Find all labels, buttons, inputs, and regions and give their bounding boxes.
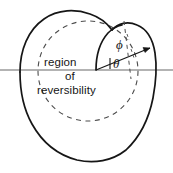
phi-leader-lower (131, 49, 134, 58)
theta-ray-arrowhead (143, 48, 150, 53)
theta-ray-line (96, 48, 150, 70)
label-region: region (44, 57, 77, 69)
label-reversibility: reversibility (37, 85, 96, 97)
dashed-region-circle (38, 21, 138, 121)
label-theta-angle: θ (113, 57, 119, 70)
label-of: of (65, 71, 75, 83)
figure-container: region of reversibility ϕ θ (0, 0, 173, 173)
phi-leader-upper (127, 34, 129, 40)
label-phi-angle: ϕ (116, 38, 123, 51)
